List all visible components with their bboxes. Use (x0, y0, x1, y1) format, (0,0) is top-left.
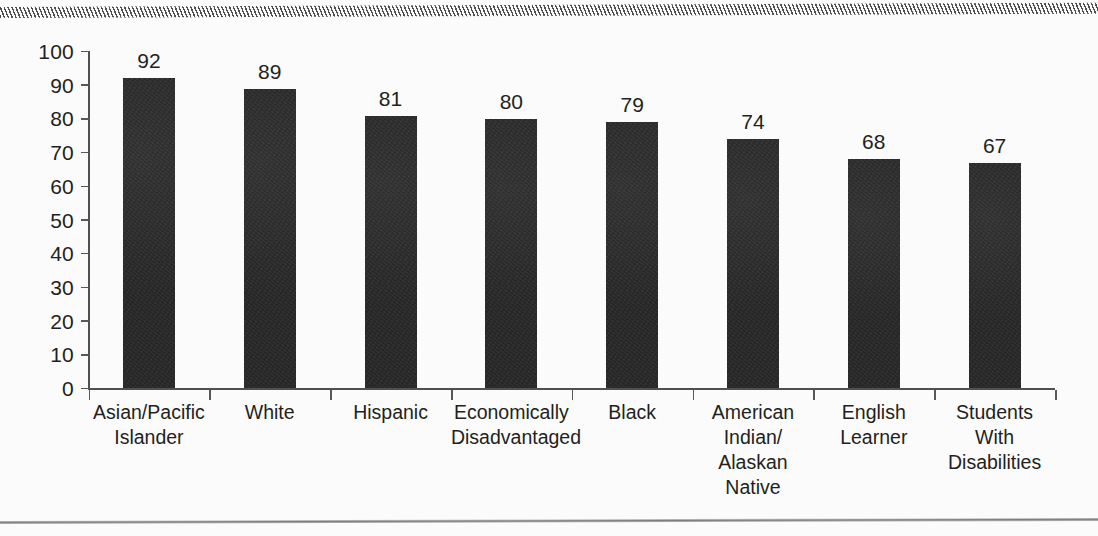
y-axis-tick-label: 100 (14, 41, 74, 62)
bar-chart: 1009080706050403020100 92Asian/Pacific I… (0, 0, 1098, 536)
y-axis-tick-mark (81, 320, 89, 322)
bar (365, 116, 417, 389)
y-axis-tick-mark (81, 186, 89, 188)
y-axis-tick-mark (81, 219, 89, 221)
x-axis-category-label: American Indian/ Alaskan Native (693, 400, 814, 500)
x-axis-category-label: Hispanic (330, 400, 451, 425)
x-axis-tick-mark (1055, 390, 1057, 400)
bar (848, 159, 900, 388)
x-axis-tick-mark (572, 390, 574, 400)
y-axis-tick-mark (81, 253, 89, 255)
x-axis-tick-mark (209, 390, 211, 400)
bar-value-label: 92 (109, 50, 189, 71)
bar-value-label: 68 (834, 131, 914, 152)
bar-value-label: 79 (592, 94, 672, 115)
y-axis-tick-mark (81, 152, 89, 154)
x-axis-tick-mark (813, 390, 815, 400)
y-axis-tick-label: 90 (14, 75, 74, 96)
y-axis-tick-label: 50 (14, 210, 74, 231)
x-axis-category-label: Black (572, 400, 693, 425)
y-axis-tick-mark (81, 84, 89, 86)
y-axis-tick-label: 0 (14, 378, 74, 399)
bar (485, 119, 537, 389)
bar (244, 89, 296, 389)
x-axis-tick-mark (89, 390, 91, 400)
bar-value-label: 80 (471, 91, 551, 112)
y-axis-tick-label: 40 (14, 243, 74, 264)
y-axis-tick-label: 30 (14, 277, 74, 298)
y-axis-tick-label: 10 (14, 344, 74, 365)
y-axis-tick-mark (81, 287, 89, 289)
bar-value-label: 81 (351, 88, 431, 109)
bar-value-label: 67 (955, 135, 1035, 156)
bar (969, 163, 1021, 389)
x-axis-category-label: Asian/Pacific Islander (89, 400, 210, 450)
y-axis-tick-mark (81, 118, 89, 120)
x-axis-tick-mark (934, 390, 936, 400)
x-axis-category-label: White (209, 400, 330, 425)
y-axis-tick-label: 70 (14, 142, 74, 163)
y-axis-tick-label: 60 (14, 176, 74, 197)
bar (727, 139, 779, 388)
x-axis-category-label: Students With Disabilities (934, 400, 1055, 475)
y-axis-tick-mark (81, 51, 89, 53)
x-axis-tick-mark (693, 390, 695, 400)
y-axis-tick-label: 20 (14, 311, 74, 332)
bar (123, 78, 175, 388)
bar (606, 122, 658, 388)
y-axis-tick-mark (81, 354, 89, 356)
y-axis-tick-label: 80 (14, 108, 74, 129)
x-axis-category-label: Economically Disadvantaged (451, 400, 572, 450)
bar-value-label: 74 (713, 111, 793, 132)
x-axis-tick-mark (330, 390, 332, 400)
x-axis-category-label: English Learner (813, 400, 934, 450)
bar-value-label: 89 (230, 61, 310, 82)
x-axis-tick-mark (451, 390, 453, 400)
